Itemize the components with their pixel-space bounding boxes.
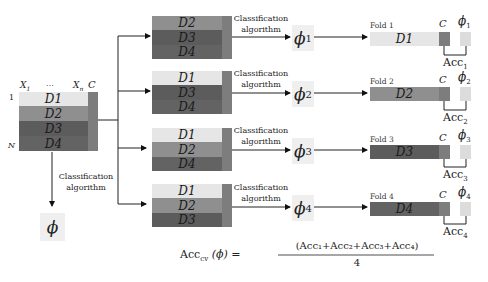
fold-4-train-block: D2 bbox=[152, 198, 222, 213]
fold-2-train-block: D1 bbox=[152, 71, 222, 85]
fold-3-train-block: D2 bbox=[152, 142, 222, 157]
fold-3-train-block: D4 bbox=[152, 157, 222, 171]
fold-4-edge-label: Classification algorithm bbox=[232, 182, 290, 204]
formula-denominator: 4 bbox=[280, 257, 434, 268]
fold-3-prediction bbox=[460, 145, 471, 159]
fold-2-prediction bbox=[460, 87, 471, 101]
fold-1-phi: ϕ1 bbox=[292, 25, 314, 51]
formula-numerator: (Acc₁+Acc₂+Acc₃+Acc₄) bbox=[280, 240, 434, 251]
fold-2-label: Fold 2 bbox=[370, 77, 394, 86]
fold-1-train-block: D3 bbox=[152, 30, 222, 45]
fold-2-test-block: D2 bbox=[370, 87, 439, 101]
fold-1-phi-label: ϕ1 bbox=[458, 16, 471, 32]
fold-3-phi-label: ϕ3 bbox=[458, 130, 471, 146]
fold-2-accuracy: Acc2 bbox=[443, 111, 468, 126]
col-header-class: C bbox=[88, 79, 96, 90]
fold-1-prediction bbox=[460, 32, 471, 46]
fold-4-test-block: D4 bbox=[370, 202, 439, 216]
fold-4-train-block: D1 bbox=[152, 184, 222, 198]
fold-3-label: Fold 3 bbox=[370, 135, 394, 144]
fold-2-train-block: D4 bbox=[152, 100, 222, 114]
dataset-block-d2: D2 bbox=[19, 106, 88, 121]
fold-3-train-block: D1 bbox=[152, 128, 222, 142]
fold-3-test-block: D3 bbox=[370, 145, 439, 159]
fold-2-train-block: D3 bbox=[152, 85, 222, 100]
fold-4-class-label: C bbox=[439, 189, 447, 200]
full-model-edge-label: Classification algorithm bbox=[56, 171, 116, 193]
fold-4-label: Fold 4 bbox=[370, 192, 394, 201]
fold-1-label: Fold 1 bbox=[370, 21, 394, 30]
full-model-phi: ϕ bbox=[40, 213, 65, 241]
fold-2-class-column bbox=[222, 71, 232, 114]
fold-3-test-class bbox=[439, 145, 450, 159]
fold-1-class-label: C bbox=[439, 18, 447, 29]
col-header-dots: … bbox=[46, 78, 54, 89]
fold-3-accuracy: Acc3 bbox=[443, 168, 468, 183]
fold-1-accuracy: Acc1 bbox=[443, 56, 468, 71]
dataset-block-d1: D1 bbox=[19, 92, 88, 106]
dataset-block-d4: D4 bbox=[19, 136, 88, 151]
fold-2-phi: ϕ2 bbox=[292, 81, 314, 107]
fold-4-test-class bbox=[439, 202, 450, 216]
fold-2-class-label: C bbox=[439, 74, 447, 85]
fold-1-edge-label: Classification algorithm bbox=[232, 13, 290, 35]
fold-4-phi: ϕ4 bbox=[292, 195, 314, 221]
fold-4-phi-label: ϕ4 bbox=[458, 187, 471, 203]
fold-3-class-column bbox=[222, 128, 232, 171]
fold-1-train-block: D4 bbox=[152, 45, 222, 59]
fold-4-class-column bbox=[222, 184, 232, 227]
fold-4-accuracy: Acc4 bbox=[443, 225, 468, 240]
fold-4-train-block: D3 bbox=[152, 213, 222, 227]
fold-1-test-class bbox=[439, 32, 450, 46]
fold-3-class-label: C bbox=[439, 132, 447, 143]
dataset-class-column bbox=[88, 92, 98, 151]
row-label-last: N bbox=[8, 140, 15, 151]
fold-4-prediction bbox=[460, 202, 471, 216]
formula-lhs: Acccv (ϕ) = bbox=[180, 248, 240, 263]
fold-1-train-block: D2 bbox=[152, 16, 222, 30]
fold-1-test-block: D1 bbox=[370, 32, 439, 46]
fold-3-phi: ϕ3 bbox=[292, 138, 314, 164]
fold-2-test-class bbox=[439, 87, 450, 101]
fold-2-phi-label: ϕ2 bbox=[458, 72, 471, 88]
fold-1-class-column bbox=[222, 16, 232, 59]
fold-2-edge-label: Classification algorithm bbox=[232, 68, 290, 90]
dataset-block-d3: D3 bbox=[19, 121, 88, 136]
fold-3-edge-label: Classification algorithm bbox=[232, 125, 290, 147]
row-label-first: 1 bbox=[9, 92, 14, 103]
